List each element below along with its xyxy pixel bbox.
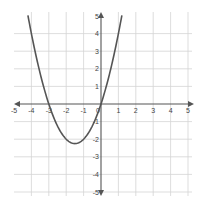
- parabola-curve: [28, 15, 122, 143]
- y-tick-label: -5: [93, 189, 99, 196]
- x-tick-label: 4: [169, 107, 173, 114]
- axes: [14, 12, 194, 196]
- y-tick-label: 5: [95, 13, 99, 20]
- y-tick-label: -3: [93, 153, 99, 160]
- x-tick-label: 2: [134, 107, 138, 114]
- y-tick-label: -2: [93, 136, 99, 143]
- x-tick-label: -1: [80, 107, 86, 114]
- coordinate-plane: -5-4-3-2-101234554321-1-2-3-4-5: [0, 0, 198, 200]
- x-tick-label: 5: [186, 107, 190, 114]
- x-tick-label: -4: [28, 107, 34, 114]
- y-tick-label: -4: [93, 171, 99, 178]
- x-tick-label: -5: [11, 107, 17, 114]
- y-tick-label: 4: [95, 30, 99, 37]
- x-tick-label: 1: [116, 107, 120, 114]
- x-tick-label: -2: [63, 107, 69, 114]
- y-tick-label: 1: [95, 83, 99, 90]
- y-tick-label: 2: [95, 65, 99, 72]
- x-tick-label: 3: [151, 107, 155, 114]
- y-tick-label: 3: [95, 48, 99, 55]
